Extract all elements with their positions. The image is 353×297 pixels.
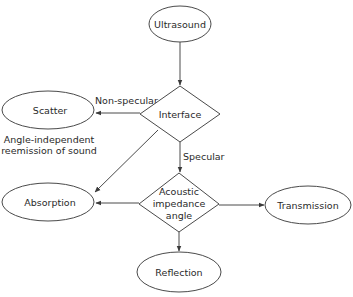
node-transmission: Transmission <box>265 186 351 224</box>
non-specular-label: Non-specular <box>95 95 158 106</box>
reflection-label: Reflection <box>155 267 202 278</box>
transmission-label: Transmission <box>276 200 338 211</box>
acoustic-label-line2: impedance <box>153 198 206 209</box>
absorption-label: Absorption <box>24 197 75 208</box>
interface-label: Interface <box>159 109 202 120</box>
scatter-annotation-line2: reemission of sound <box>1 145 97 156</box>
acoustic-label-line1: Acoustic <box>159 186 199 197</box>
scatter-label: Scatter <box>33 105 67 116</box>
node-acoustic-impedance-angle: Acoustic impedance angle <box>139 173 219 232</box>
node-ultrasound: Ultrasound <box>149 6 211 42</box>
edge-interface-absorption <box>95 130 158 192</box>
node-scatter: Scatter <box>2 91 94 129</box>
flow-diagram: Non-specular Specular Angle-independent … <box>0 0 353 297</box>
scatter-annotation-line1: Angle-independent <box>4 134 95 145</box>
node-absorption: Absorption <box>2 183 94 221</box>
acoustic-label-line3: angle <box>166 210 193 221</box>
node-reflection: Reflection <box>137 252 221 292</box>
specular-label: Specular <box>183 151 225 162</box>
ultrasound-label: Ultrasound <box>154 19 206 30</box>
